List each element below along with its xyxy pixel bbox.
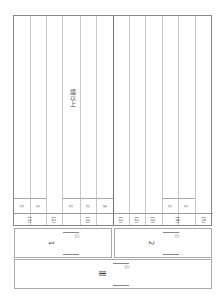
group-label: (3) (149, 215, 157, 225)
score-line (63, 232, 79, 233)
group-label: (5) (200, 215, 208, 225)
item-mark: ② (84, 201, 92, 211)
points-mark: 点 (74, 234, 80, 238)
column-divider (96, 16, 97, 225)
column-divider (178, 16, 179, 225)
row-divider (62, 198, 113, 199)
column-divider (30, 16, 31, 225)
score-panel-total[interactable]: Ⅲ 点 (14, 259, 212, 289)
column-divider (46, 16, 47, 225)
column-divider (80, 16, 81, 225)
column-divider (195, 16, 196, 225)
instruction-text: 語以上 (68, 89, 77, 107)
item-mark: ① (18, 201, 26, 211)
item-mark: ② (34, 201, 42, 211)
group-label: (1) (117, 215, 125, 225)
block-divider (113, 16, 114, 225)
score-panel-label: 2 (147, 241, 155, 245)
answer-grid: 語以上 ① ② ① ② ③ (1) (2) (3) ① ② (1) (2) (3… (13, 15, 212, 226)
column-divider (129, 16, 130, 225)
score-line (113, 263, 129, 264)
group-label: (3) (84, 215, 92, 225)
score-line (163, 232, 179, 233)
column-divider (62, 16, 63, 225)
group-label: (1) (26, 215, 34, 225)
item-mark: ① (166, 201, 174, 211)
score-panel-1[interactable]: 1 点 (14, 228, 112, 258)
row-divider (162, 198, 195, 199)
group-label: (2) (50, 215, 58, 225)
item-mark: ① (67, 201, 75, 211)
score-panel-2[interactable]: 2 点 (114, 228, 212, 258)
score-panel-label: Ⅲ (97, 271, 106, 277)
score-line (163, 254, 179, 255)
column-divider (145, 16, 146, 225)
group-label: (2) (133, 215, 141, 225)
item-mark: ② (182, 201, 190, 211)
score-panel-label: 1 (47, 241, 55, 245)
column-divider (162, 16, 163, 225)
row-divider (14, 213, 213, 214)
score-line (63, 254, 79, 255)
group-label: (4) (174, 215, 182, 225)
item-mark: ③ (101, 201, 109, 211)
row-divider (14, 198, 46, 199)
score-line (113, 285, 129, 286)
points-mark: 点 (174, 234, 180, 238)
points-mark: 点 (124, 265, 130, 269)
